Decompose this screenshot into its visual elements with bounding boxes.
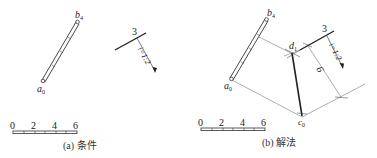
caption-b: (b) 解法 — [262, 138, 296, 148]
label-b4: b4 — [267, 8, 275, 19]
line-ab-scale-bar-b — [230, 18, 269, 81]
label-contour-3: 3 — [322, 24, 327, 34]
slope-arrow-icon — [153, 67, 158, 73]
line-ab-scale-bar — [41, 20, 79, 83]
scale-tick-6: 6 — [261, 118, 266, 128]
scale-ruler-a — [13, 131, 77, 134]
panel-a-drawing — [13, 20, 157, 133]
scale-tick-0: 0 — [198, 118, 203, 128]
diagram-canvas — [0, 0, 377, 158]
scale-tick-0: 0 — [10, 121, 15, 131]
label-a0: a0 — [224, 81, 232, 92]
scale-tick-6: 6 — [73, 121, 78, 131]
label-contour-3: 3 — [132, 27, 137, 37]
label-d1: d1 — [289, 41, 297, 52]
caption-a: (a) 条件 — [63, 141, 97, 151]
scale-ruler-b — [201, 128, 265, 131]
panel-b-drawing — [201, 18, 365, 131]
scale-tick-4: 4 — [240, 118, 245, 128]
line-d1-c0 — [292, 53, 302, 116]
scale-tick-2: 2 — [31, 121, 36, 131]
scale-tick-4: 4 — [52, 121, 57, 131]
label-b4: b4 — [75, 10, 83, 21]
construction-lines — [232, 37, 365, 117]
label-a0: a0 — [37, 84, 45, 95]
slope-arrow-icon — [340, 63, 345, 69]
label-c0: c0 — [298, 118, 305, 128]
plane-contour-3 — [115, 33, 157, 73]
scale-tick-2: 2 — [219, 118, 224, 128]
